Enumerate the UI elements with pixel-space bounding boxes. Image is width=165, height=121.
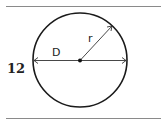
- diameter-label: D: [52, 46, 60, 59]
- radius-line: [80, 26, 112, 61]
- circle-diagram: D r: [0, 0, 165, 121]
- radius-label: r: [88, 32, 93, 45]
- center-point: [78, 59, 82, 63]
